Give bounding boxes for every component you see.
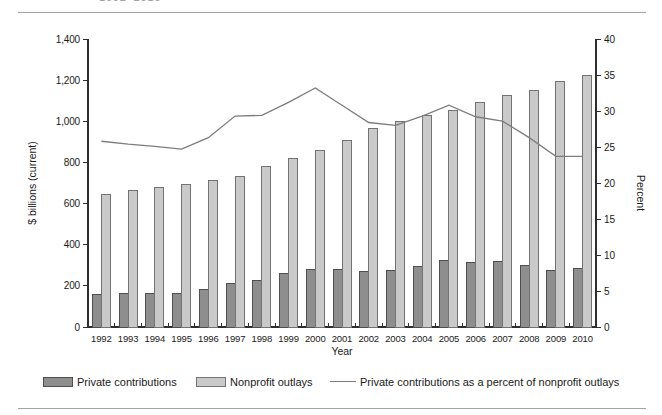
bar-private-contributions-1999 xyxy=(280,274,289,327)
bar-private-contributions-1996 xyxy=(199,290,208,327)
right-axis-tick-label: 25 xyxy=(604,142,615,153)
bar-nonprofit-outlays-1998 xyxy=(262,166,271,327)
x-tick-label-1999: 1999 xyxy=(278,333,299,344)
right-axis-tick-label: 0 xyxy=(604,322,610,333)
right-axis-title: Percent xyxy=(635,175,647,211)
left-axis-tick-label: 0 xyxy=(75,322,81,333)
x-tick-label-2010: 2010 xyxy=(572,333,593,344)
left-axis-tick-label: 600 xyxy=(64,198,81,209)
private-contributions-swatch-icon xyxy=(43,377,73,387)
left-axis-tick-label: 200 xyxy=(64,280,81,291)
x-tick-label-2007: 2007 xyxy=(492,333,513,344)
x-tick-label-2003: 2003 xyxy=(385,333,406,344)
left-axis-tick-label: 1,400 xyxy=(56,34,81,45)
bar-nonprofit-outlays-2004 xyxy=(422,115,431,327)
bar-nonprofit-outlays-2002 xyxy=(369,128,378,327)
legend-item-private-contributions: Private contributions xyxy=(43,374,177,389)
bar-nonprofit-outlays-2009 xyxy=(556,82,565,327)
right-axis-tick-label: 35 xyxy=(604,70,615,81)
bar-private-contributions-1998 xyxy=(253,280,262,327)
legend-label: Private contributions xyxy=(77,376,177,388)
left-axis-tick-label: 1,200 xyxy=(56,75,81,86)
right-axis-tick-label: 30 xyxy=(604,106,615,117)
bar-private-contributions-1992 xyxy=(92,294,101,327)
x-tick-label-2001: 2001 xyxy=(332,333,353,344)
x-tick-label-2000: 2000 xyxy=(305,333,326,344)
x-tick-label-1997: 1997 xyxy=(225,333,246,344)
bar-nonprofit-outlays-2000 xyxy=(315,151,324,327)
bar-nonprofit-outlays-2006 xyxy=(476,103,485,327)
bar-private-contributions-2007 xyxy=(493,261,502,327)
nonprofit-outlays-swatch-icon xyxy=(196,377,226,387)
bar-nonprofit-outlays-1995 xyxy=(182,185,191,327)
right-axis-tick-label: 10 xyxy=(604,250,615,261)
x-tick-label-2004: 2004 xyxy=(412,333,433,344)
x-tick-label-1998: 1998 xyxy=(252,333,273,344)
left-axis-tick-label: 1,000 xyxy=(56,116,81,127)
left-axis-tick-label: 400 xyxy=(64,239,81,250)
x-tick-label-1996: 1996 xyxy=(198,333,219,344)
bottom-rule xyxy=(18,408,646,409)
x-tick-label-2006: 2006 xyxy=(465,333,486,344)
right-axis-tick-label: 20 xyxy=(604,178,615,189)
x-tick-label-2009: 2009 xyxy=(546,333,567,344)
bar-private-contributions-2004 xyxy=(413,267,422,327)
bar-nonprofit-outlays-1994 xyxy=(155,187,164,327)
x-tick-label-2005: 2005 xyxy=(439,333,460,344)
bar-private-contributions-2005 xyxy=(440,261,449,327)
bar-private-contributions-2002 xyxy=(360,271,369,327)
bar-private-contributions-2008 xyxy=(520,266,529,327)
bar-private-contributions-1994 xyxy=(146,293,155,327)
bar-nonprofit-outlays-1999 xyxy=(289,159,298,327)
legend-label: Nonprofit outlays xyxy=(230,376,313,388)
bar-nonprofit-outlays-1997 xyxy=(235,177,244,327)
bar-private-contributions-1995 xyxy=(173,293,182,327)
figure-page: 1992–2010 02004006008001,0001,2001,40005… xyxy=(0,0,662,415)
bar-private-contributions-1997 xyxy=(226,283,235,327)
bar-nonprofit-outlays-2001 xyxy=(342,140,351,327)
right-axis-tick-label: 5 xyxy=(604,286,610,297)
bar-private-contributions-2000 xyxy=(306,269,315,327)
bar-nonprofit-outlays-1993 xyxy=(128,190,137,327)
bar-private-contributions-2001 xyxy=(333,270,342,327)
bar-private-contributions-2010 xyxy=(574,268,583,327)
right-axis-tick-label: 40 xyxy=(604,34,615,45)
legend-item-percent-line: Private contributions as a percent of no… xyxy=(330,374,619,389)
bar-private-contributions-2009 xyxy=(547,270,556,327)
x-tick-label-1995: 1995 xyxy=(171,333,192,344)
legend-item-nonprofit-outlays: Nonprofit outlays xyxy=(196,374,313,389)
bar-nonprofit-outlays-2007 xyxy=(502,96,511,327)
x-axis-title: Year xyxy=(331,345,352,357)
bar-nonprofit-outlays-2010 xyxy=(583,75,592,327)
bar-nonprofit-outlays-1992 xyxy=(101,194,110,327)
bar-nonprofit-outlays-1996 xyxy=(208,180,217,327)
bar-nonprofit-outlays-2003 xyxy=(395,122,404,327)
bar-nonprofit-outlays-2005 xyxy=(449,110,458,327)
left-axis-tick-label: 800 xyxy=(64,157,81,168)
bar-private-contributions-2003 xyxy=(386,271,395,327)
bar-nonprofit-outlays-2008 xyxy=(529,90,538,327)
bar-private-contributions-2006 xyxy=(467,262,476,327)
x-tick-label-2008: 2008 xyxy=(519,333,540,344)
percent-line-sample-icon xyxy=(330,381,356,382)
x-tick-label-1993: 1993 xyxy=(118,333,139,344)
x-tick-label-2002: 2002 xyxy=(358,333,379,344)
right-axis-tick-label: 15 xyxy=(604,214,615,225)
bar-private-contributions-1993 xyxy=(119,293,128,327)
left-axis-title: $ billions (current) xyxy=(26,141,38,224)
x-tick-label-1994: 1994 xyxy=(145,333,166,344)
x-tick-label-1992: 1992 xyxy=(91,333,112,344)
legend-label: Private contributions as a percent of no… xyxy=(360,376,619,388)
